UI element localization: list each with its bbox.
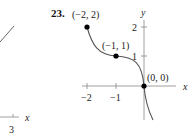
axes (82, 20, 176, 120)
x-tick-label-neg1: −1 (110, 92, 121, 103)
x-axis-label: x (182, 81, 188, 92)
point-neg2-2 (84, 24, 89, 29)
y-axis-label: y (140, 7, 146, 18)
point-label-neg1-1: (−1, 1) (102, 40, 129, 52)
point-label-neg2-2: (−2, 2) (72, 9, 99, 21)
left-tick-label-3: 3 (9, 124, 14, 135)
problem-number: 23. (51, 7, 65, 19)
point-neg1-1 (113, 53, 118, 58)
left-partial-graph: x 3 (0, 26, 30, 135)
point-label-origin: (0, 0) (147, 72, 169, 84)
point-origin (141, 83, 146, 88)
figure-canvas: x 3 23. x y −2 −1 2 1 (−2, 2) (−1, 1) (0… (0, 0, 194, 138)
y-tick-label-2: 2 (132, 22, 137, 33)
x-tick-label-neg2: −2 (81, 92, 92, 103)
partial-line (0, 26, 14, 42)
left-x-axis-label: x (24, 112, 30, 123)
